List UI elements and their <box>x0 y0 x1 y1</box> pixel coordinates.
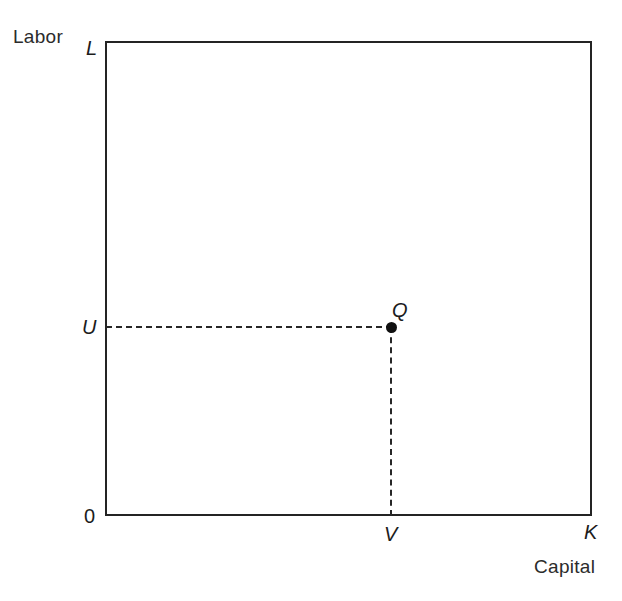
origin-label: 0 <box>84 506 95 526</box>
diagram-canvas: Labor L U 0 Q V K Capital <box>0 0 622 601</box>
capital-level-label: V <box>384 524 397 544</box>
labor-guide-dashed-line <box>106 326 392 328</box>
y-axis-name-label: Labor <box>13 27 63 46</box>
capital-guide-dashed-line <box>390 327 392 516</box>
plot-area-box <box>105 41 592 516</box>
labor-level-label: U <box>82 317 96 337</box>
x-axis-endpoint-label: K <box>584 522 597 542</box>
point-q-marker <box>386 322 397 333</box>
y-axis-endpoint-label: L <box>86 38 97 58</box>
point-q-label: Q <box>392 300 408 320</box>
x-axis-name-label: Capital <box>534 557 595 576</box>
